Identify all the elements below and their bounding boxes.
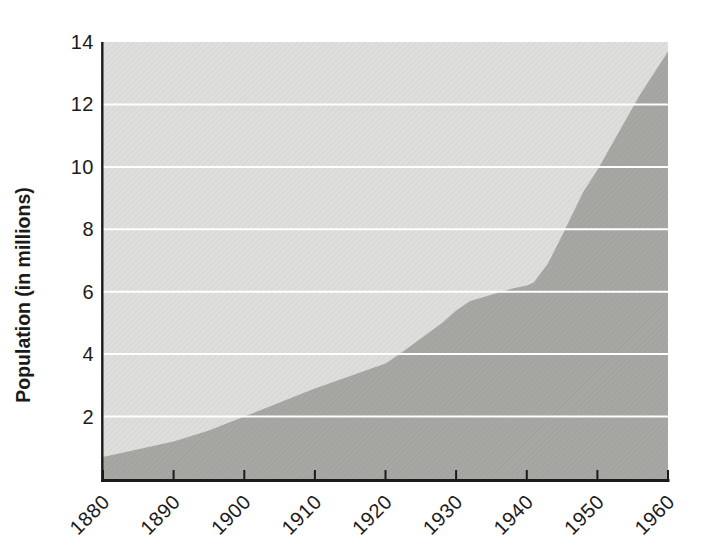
x-axis-tick-labels: 188018901900191019201930194019501960 xyxy=(65,490,678,538)
y-tick-label: 6 xyxy=(82,281,94,303)
y-tick-label: 8 xyxy=(82,218,94,240)
population-area-chart: 2468101214 18801890190019101920193019401… xyxy=(0,0,709,558)
x-tick-label: 1920 xyxy=(348,490,396,538)
y-tick-label: 14 xyxy=(71,31,94,53)
x-tick-label: 1940 xyxy=(489,490,537,538)
y-tick-label: 10 xyxy=(71,156,94,178)
y-tick-label: 4 xyxy=(82,343,94,365)
chart-canvas: 2468101214 18801890190019101920193019401… xyxy=(0,0,709,558)
x-tick-label: 1900 xyxy=(207,490,255,538)
x-tick-label: 1880 xyxy=(65,490,113,538)
x-tick-label: 1950 xyxy=(560,490,608,538)
y-axis-tick-labels: 2468101214 xyxy=(71,31,94,428)
y-tick-label: 12 xyxy=(71,93,94,115)
y-axis-title: Population (in millions) xyxy=(12,187,34,403)
x-tick-label: 1910 xyxy=(277,490,325,538)
print-texture-overlay xyxy=(103,42,668,479)
x-tick-label: 1890 xyxy=(136,490,184,538)
y-tick-label: 2 xyxy=(82,406,94,428)
texture-rect xyxy=(103,42,668,479)
x-tick-label: 1960 xyxy=(630,490,678,538)
x-tick-label: 1930 xyxy=(418,490,466,538)
